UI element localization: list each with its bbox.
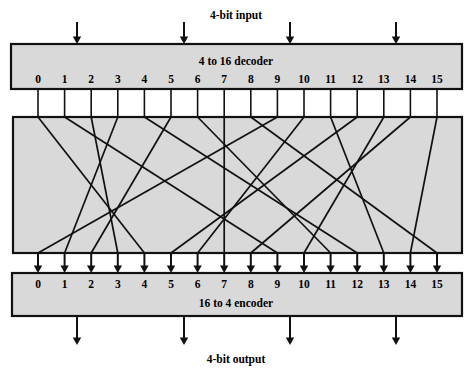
encoder-input-arrow-12 bbox=[353, 253, 361, 273]
encoder-input-arrow-7 bbox=[220, 253, 228, 273]
encoder-input-arrow-14 bbox=[406, 253, 414, 273]
encoder-port-13: 13 bbox=[378, 278, 390, 290]
decoder-port-0: 0 bbox=[35, 73, 41, 85]
encoder-input-arrow-6 bbox=[193, 253, 201, 273]
output-arrow-2 bbox=[286, 316, 294, 345]
decoder-crossbar-encoder-diagram: 4-bit input 4 to 16 decoder 012345678910… bbox=[0, 0, 473, 373]
encoder-input-arrow-4 bbox=[140, 253, 148, 273]
decoder-port-13: 13 bbox=[378, 73, 390, 85]
input-arrow-1 bbox=[180, 22, 188, 44]
decoder-label: 4 to 16 decoder bbox=[199, 55, 273, 67]
decoder-port-2: 2 bbox=[88, 73, 94, 85]
output-arrow-group bbox=[73, 316, 400, 345]
decoder-port-11: 11 bbox=[325, 73, 336, 85]
decoder-port-8: 8 bbox=[248, 73, 254, 85]
diagram-canvas: 4-bit input 4 to 16 decoder 012345678910… bbox=[0, 0, 473, 373]
encoder-port-9: 9 bbox=[275, 278, 281, 290]
output-arrow-0 bbox=[73, 316, 81, 345]
input-arrow-2 bbox=[286, 22, 294, 44]
decoder-output-stub-group bbox=[38, 89, 437, 117]
encoder-port-0: 0 bbox=[35, 278, 41, 290]
encoder-input-arrow-0 bbox=[34, 253, 42, 273]
encoder-input-arrow-10 bbox=[300, 253, 308, 273]
encoder-port-11: 11 bbox=[325, 278, 336, 290]
decoder-port-5: 5 bbox=[168, 73, 174, 85]
input-arrow-group bbox=[73, 22, 400, 44]
decoder-port-15: 15 bbox=[431, 73, 443, 85]
input-arrow-3 bbox=[392, 22, 400, 44]
encoder-port-15: 15 bbox=[431, 278, 443, 290]
output-arrow-1 bbox=[180, 316, 188, 345]
encoder-input-arrow-2 bbox=[87, 253, 95, 273]
encoder-port-14: 14 bbox=[405, 278, 417, 290]
decoder-port-4: 4 bbox=[142, 73, 148, 85]
encoder-port-2: 2 bbox=[88, 278, 94, 290]
encoder-label: 16 to 4 encoder bbox=[199, 297, 273, 309]
decoder-port-3: 3 bbox=[115, 73, 121, 85]
decoder-port-14: 14 bbox=[405, 73, 417, 85]
output-arrow-3 bbox=[392, 316, 400, 345]
encoder-input-arrow-11 bbox=[326, 253, 334, 273]
encoder-port-10: 10 bbox=[298, 278, 310, 290]
decoder-port-10: 10 bbox=[298, 73, 310, 85]
encoder-input-arrow-8 bbox=[247, 253, 255, 273]
encoder-port-3: 3 bbox=[115, 278, 121, 290]
encoder-port-8: 8 bbox=[248, 278, 254, 290]
encoder-input-stub-group bbox=[34, 253, 441, 273]
encoder-port-4: 4 bbox=[142, 278, 148, 290]
encoder-block bbox=[12, 273, 462, 316]
crossbar-block bbox=[13, 117, 462, 253]
encoder-port-1: 1 bbox=[62, 278, 68, 290]
decoder-port-12: 12 bbox=[351, 73, 363, 85]
encoder-port-6: 6 bbox=[195, 278, 201, 290]
encoder-input-arrow-5 bbox=[167, 253, 175, 273]
encoder-input-arrow-9 bbox=[273, 253, 281, 273]
input-caption: 4-bit input bbox=[210, 9, 262, 22]
input-arrow-0 bbox=[73, 22, 81, 44]
encoder-input-arrow-3 bbox=[114, 253, 122, 273]
encoder-input-arrow-15 bbox=[433, 253, 441, 273]
encoder-input-arrow-13 bbox=[380, 253, 388, 273]
encoder-port-12: 12 bbox=[351, 278, 363, 290]
decoder-port-7: 7 bbox=[221, 73, 227, 85]
decoder-port-6: 6 bbox=[195, 73, 201, 85]
encoder-port-7: 7 bbox=[221, 278, 227, 290]
output-caption: 4-bit output bbox=[207, 353, 266, 366]
decoder-port-1: 1 bbox=[62, 73, 68, 85]
encoder-input-arrow-1 bbox=[60, 253, 68, 273]
decoder-port-9: 9 bbox=[275, 73, 281, 85]
encoder-port-5: 5 bbox=[168, 278, 174, 290]
